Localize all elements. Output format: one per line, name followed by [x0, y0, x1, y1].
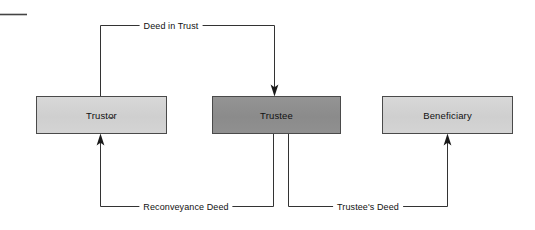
trust-deed-diagram: Trustor Trustee Beneficiary Deed in Trus…: [0, 0, 535, 230]
trustor-dash-mark: [108, 117, 114, 118]
deed-in-trust-connector: [101, 26, 275, 97]
node-trustor[interactable]: Trustor: [36, 96, 167, 134]
edge-label-deed-in-trust: Deed in Trust: [140, 21, 203, 32]
node-beneficiary-label: Beneficiary: [423, 110, 472, 121]
node-trustee[interactable]: Trustee: [212, 96, 341, 134]
trustees-deed-connector: [289, 134, 448, 207]
reconveyance-deed-connector: [101, 134, 274, 207]
edge-label-reconveyance-deed: Reconveyance Deed: [139, 202, 232, 213]
node-trustee-label: Trustee: [260, 110, 293, 121]
node-beneficiary[interactable]: Beneficiary: [382, 96, 513, 134]
edge-label-trustees-deed: Trustee's Deed: [333, 202, 403, 213]
node-trustor-label: Trustor: [86, 110, 117, 121]
